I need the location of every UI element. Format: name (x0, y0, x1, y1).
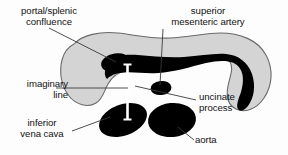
label-inferior-vena-cava: inferior vena cava (8, 117, 76, 140)
label-imaginary-line: imaginary line (0, 78, 68, 101)
label-portal-splenic-confluence: portal/splenic confluence (8, 5, 90, 28)
anatomy-figure: portal/splenic confluence superior mesen… (0, 0, 288, 155)
aorta-vessel (146, 101, 197, 140)
label-superior-mesenteric-artery: superior mesenteric artery (152, 5, 264, 28)
label-aorta: aorta (195, 134, 235, 145)
label-uncinate-process: uncinate process (199, 91, 261, 114)
